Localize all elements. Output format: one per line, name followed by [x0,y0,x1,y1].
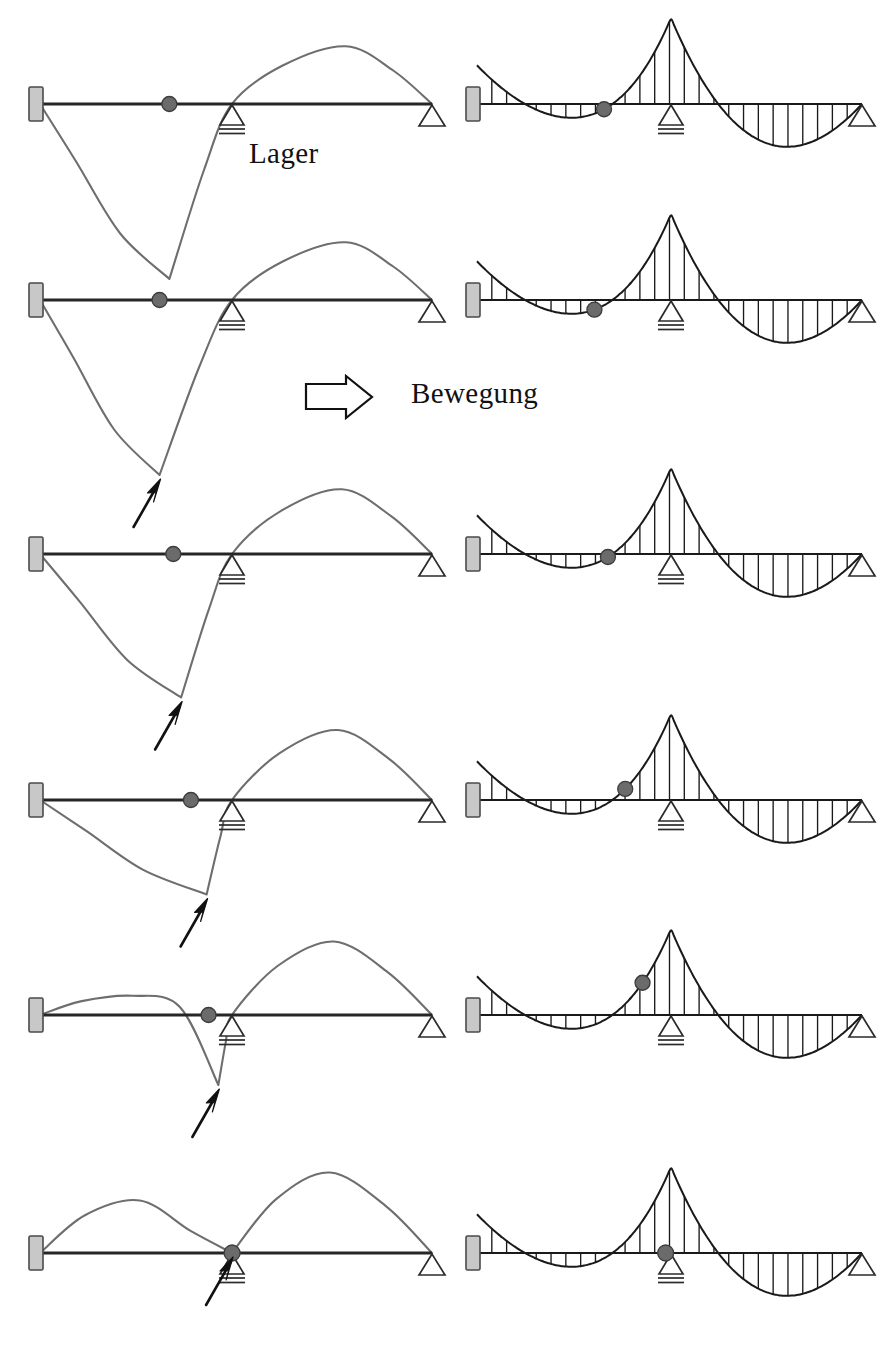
load-marker-left-row-4[interactable] [183,793,198,808]
pin-support-left-row-4 [419,801,445,822]
fixed-support-left-row-5 [29,998,43,1032]
influence-line-row-2 [40,242,432,475]
pin-support-left-row-3 [419,555,445,576]
moment-diagram-row-6-hatching [492,1170,847,1295]
load-marker-left-row-1[interactable] [162,97,177,112]
fixed-support-left-row-2 [29,283,43,317]
roller-support-right-row-1-triangle [659,105,683,125]
pin-support-left-row-5 [419,1016,445,1037]
pointer-arrow-row-5 [192,1089,219,1137]
roller-support-left-row-5 [219,1016,245,1045]
pin-support-right-row-2 [849,301,875,322]
roller-support-left-row-1 [219,105,245,134]
pointer-arrow-row-3 [155,702,182,750]
roller-support-left-row-2 [219,301,245,330]
load-marker-right-row-1[interactable] [597,102,612,117]
motion-arrow-icon [306,376,372,418]
roller-support-left-row-4-triangle [220,801,244,821]
moment-diagram-row-6 [477,1168,862,1295]
roller-support-right-row-2 [658,301,684,330]
bewegung-label: Bewegung [411,377,538,410]
load-marker-left-row-3[interactable] [166,547,181,562]
load-marker-right-row-3[interactable] [600,549,615,564]
moment-diagram-row-4 [477,715,862,842]
influence-line-row-6 [40,1172,432,1257]
roller-support-right-row-3-triangle [659,555,683,575]
lager-label: Lager [249,137,319,170]
moment-diagram-row-3 [477,469,862,596]
pointer-arrow-row-4 [181,899,208,947]
moment-diagram-row-1 [477,19,862,146]
influence-line-row-5 [40,941,432,1085]
roller-support-right-row-2-triangle [659,301,683,321]
moment-diagram-row-1-hatching [492,21,847,146]
structural-diagram-svg [0,0,895,1346]
pin-support-right-row-3 [849,555,875,576]
influence-line-row-3 [40,489,432,697]
load-marker-right-row-2[interactable] [587,302,602,317]
roller-support-left-row-4 [219,801,245,830]
roller-support-right-row-3 [658,555,684,584]
roller-support-left-row-3-triangle [220,555,244,575]
fixed-support-left-row-4 [29,783,43,817]
load-marker-left-row-2[interactable] [152,293,167,308]
pointer-arrow-row-6 [206,1257,233,1305]
pin-support-right-row-4 [849,801,875,822]
influence-line-row-1 [40,46,432,279]
moment-diagram-row-4-hatching [492,717,847,842]
fixed-support-right-row-5 [466,998,480,1032]
fixed-support-right-row-1 [466,87,480,121]
pin-support-right-row-5 [849,1016,875,1037]
fixed-support-left-row-1 [29,87,43,121]
load-marker-left-row-5[interactable] [201,1008,216,1023]
pin-support-left-row-2 [419,301,445,322]
roller-support-left-row-3 [219,555,245,584]
roller-support-right-row-4 [658,801,684,830]
moment-diagram-row-5-hatching [492,932,847,1057]
fixed-support-left-row-3 [29,537,43,571]
roller-support-right-row-5 [658,1016,684,1045]
pin-support-left-row-6 [419,1254,445,1275]
fixed-support-right-row-2 [466,283,480,317]
roller-support-left-row-1-triangle [220,105,244,125]
load-marker-right-row-5[interactable] [635,975,650,990]
fixed-support-right-row-4 [466,783,480,817]
load-marker-right-row-6[interactable] [658,1245,674,1261]
moment-diagram-row-3-hatching [492,471,847,596]
pointer-arrow-row-2 [134,479,161,527]
roller-support-left-row-5-triangle [220,1016,244,1036]
fixed-support-left-row-6 [29,1236,43,1270]
pin-support-right-row-6 [849,1254,875,1275]
fixed-support-right-row-6 [466,1236,480,1270]
moment-diagram-row-5 [477,930,862,1057]
fixed-support-right-row-3 [466,537,480,571]
figure-canvas: Lager Bewegung [0,0,895,1346]
load-marker-right-row-4[interactable] [618,781,633,796]
moment-diagram-row-2 [477,215,862,342]
roller-support-right-row-5-triangle [659,1016,683,1036]
roller-support-right-row-4-triangle [659,801,683,821]
moment-diagram-row-2-hatching [492,217,847,342]
pin-support-right-row-1 [849,105,875,126]
roller-support-right-row-1 [658,105,684,134]
pin-support-left-row-1 [419,105,445,126]
